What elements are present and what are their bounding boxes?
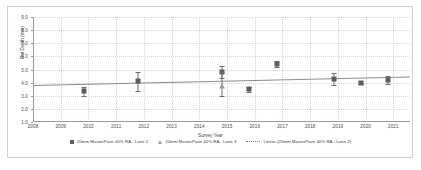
y-tick-label: 5.0 [4,67,28,72]
error-bar-cap [219,72,224,73]
data-point [274,62,279,67]
data-point [331,76,336,81]
gridline-vertical [255,17,256,122]
gridline-horizontal [33,43,410,44]
gridline-vertical [338,17,339,122]
error-bar-cap [82,87,87,88]
gridline-vertical [366,17,367,122]
gridline-vertical [172,17,173,122]
error-bar-cap [82,96,87,97]
gridline-vertical [116,17,117,122]
gridline-vertical [393,17,394,122]
error-bar-cap [331,73,336,74]
y-tick-mark [31,109,33,110]
data-point [219,84,225,89]
y-tick-mark [31,43,33,44]
legend-item-trendline[interactable]: Linear (20mm MasterPave 40% RA - Lane 2) [246,139,351,144]
y-tick-label: 9.0 [4,15,28,20]
error-bar-cap [219,66,224,67]
data-point [82,89,87,94]
legend-item-lane3[interactable]: 20mm MasterPave 40% RA - Lane 3 [158,139,236,144]
y-axis-line [33,17,34,122]
y-tick-label: 3.0 [4,93,28,98]
y-tick-mark [31,30,33,31]
y-tick-label: 4.0 [4,80,28,85]
chart-legend: 20mm MasterPave 40% RA - Lane 2 20mm Mas… [7,139,414,144]
gridline-vertical [310,17,311,122]
legend-item-lane2[interactable]: 20mm MasterPave 40% RA - Lane 2 [70,139,148,144]
error-bar-cap [274,67,279,68]
y-tick-mark [31,96,33,97]
y-tick-label: 2.0 [4,106,28,111]
y-tick-mark [31,56,33,57]
data-point [359,80,364,85]
data-point [385,78,390,83]
legend-label: 20mm MasterPave 40% RA - Lane 3 [165,139,236,144]
error-bar-cap [385,84,390,85]
triangle-marker-icon [158,140,162,144]
square-marker-icon [70,140,74,144]
error-bar-cap [136,72,141,73]
gridline-vertical [88,17,89,122]
gridline-vertical [227,17,228,122]
y-tick-mark [31,70,33,71]
y-tick-mark [31,122,33,123]
gridline-horizontal [33,109,410,110]
error-bar-cap [136,91,141,92]
gridline-horizontal [33,56,410,57]
y-tick-mark [31,17,33,18]
gridline-vertical [282,17,283,122]
data-point [136,79,141,84]
error-bar-cap [219,96,224,97]
x-axis-line [33,121,410,122]
y-tick-mark [31,83,33,84]
gridline-horizontal [33,17,410,18]
x-axis-title: Survey Year [0,133,421,138]
legend-label: 20mm MasterPave 40% RA - Lane 2 [77,139,148,144]
y-tick-label: 7.0 [4,41,28,46]
x-tick-label: 2021 [376,124,410,129]
legend-label: Linear (20mm MasterPave 40% RA - Lane 2) [263,139,351,144]
y-tick-label: 8.0 [4,28,28,33]
error-bar-cap [331,85,336,86]
gridline-vertical [144,17,145,122]
line-marker-icon [246,141,260,142]
error-bar-cap [247,92,252,93]
chart-figure: Rut Depth (mm) 1.02.03.04.05.06.07.08.09… [0,0,421,170]
gridline-horizontal [33,30,410,31]
gridline-vertical [199,17,200,122]
y-tick-label: 6.0 [4,54,28,59]
plot-area: 1.02.03.04.05.06.07.08.09.0 200820092010… [33,17,410,122]
gridline-vertical [61,17,62,122]
data-point [247,87,252,92]
